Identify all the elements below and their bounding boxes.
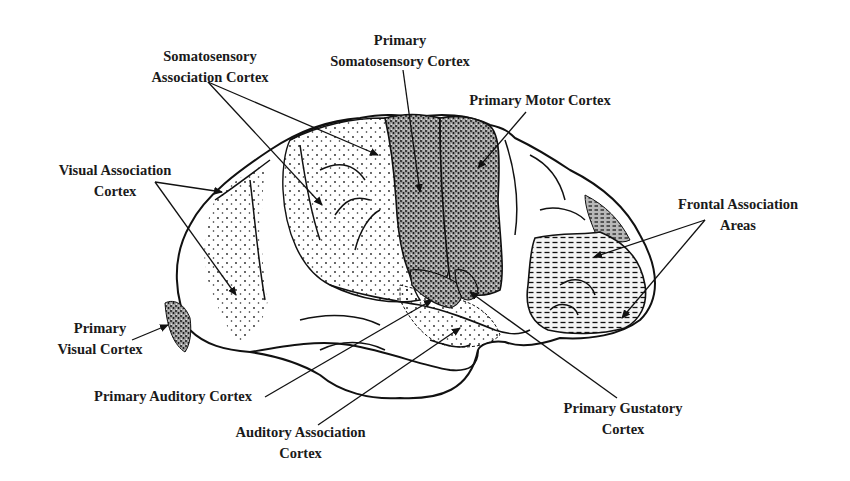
label-line: Frontal Association: [658, 194, 818, 215]
label-line: Cortex: [553, 419, 693, 440]
label-line: Primary: [315, 30, 485, 51]
label-visual-association-cortex: Visual Association Cortex: [40, 160, 190, 202]
label-line: Somatosensory: [140, 46, 280, 67]
label-frontal-association-areas: Frontal Association Areas: [658, 194, 818, 236]
label-line: Primary: [40, 318, 160, 339]
label-somatosensory-association-cortex: Somatosensory Association Cortex: [140, 46, 280, 88]
label-line: Primary Auditory Cortex: [78, 386, 268, 407]
label-line: Cortex: [218, 443, 383, 464]
label-line: Primary Gustatory: [553, 398, 693, 419]
brain-cortex-diagram: Somatosensory Association Cortex Primary…: [0, 0, 850, 481]
label-line: Association Cortex: [140, 67, 280, 88]
label-primary-visual-cortex: Primary Visual Cortex: [40, 318, 160, 360]
label-primary-auditory-cortex: Primary Auditory Cortex: [78, 386, 268, 407]
label-auditory-association-cortex: Auditory Association Cortex: [218, 422, 383, 464]
label-line: Primary Motor Cortex: [455, 90, 625, 111]
label-line: Visual Cortex: [40, 339, 160, 360]
label-line: Somatosensory Cortex: [315, 51, 485, 72]
label-line: Areas: [658, 215, 818, 236]
label-line: Cortex: [40, 181, 190, 202]
label-line: Visual Association: [40, 160, 190, 181]
label-primary-motor-cortex: Primary Motor Cortex: [455, 90, 625, 111]
brain-illustration: [0, 0, 850, 481]
region-primary-motor: [440, 116, 502, 295]
label-line: Auditory Association: [218, 422, 383, 443]
label-primary-gustatory-cortex: Primary Gustatory Cortex: [553, 398, 693, 440]
label-primary-somatosensory-cortex: Primary Somatosensory Cortex: [315, 30, 485, 72]
